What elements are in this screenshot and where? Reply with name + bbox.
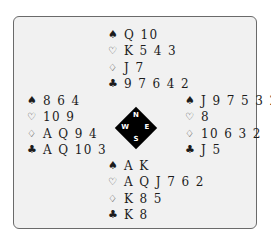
spade-icon: ♠: [108, 158, 120, 174]
heart-icon: ♡: [185, 109, 197, 125]
spade-icon: ♠: [108, 27, 120, 43]
west-diamonds: A Q 9 4: [43, 126, 98, 142]
east-diamonds: 10 6 3 2: [201, 126, 262, 142]
spade-icon: ♠: [27, 93, 39, 109]
compass-west-label: W: [120, 123, 130, 131]
north-hearts: K 5 4 3: [124, 43, 177, 59]
heart-icon: ♡: [108, 174, 120, 190]
north-diamonds: J 7: [124, 60, 144, 76]
south-hearts-row: ♡ A Q J 7 6 2: [108, 174, 205, 190]
east-clubs: J 5: [201, 142, 221, 158]
club-icon: ♣: [185, 142, 197, 158]
west-spades: 8 6 4: [43, 93, 81, 109]
club-icon: ♣: [27, 142, 39, 158]
compass-rose: N S W E: [115, 107, 157, 149]
hand-south: ♠ A K ♡ A Q J 7 6 2 ♢ K 8 5 ♣ K 8: [108, 158, 205, 223]
club-icon: ♣: [108, 76, 120, 92]
north-clubs: 9 7 6 4 2: [124, 76, 190, 92]
south-spades: A K: [124, 158, 150, 174]
east-hearts: 8: [201, 109, 210, 125]
south-spades-row: ♠ A K: [108, 158, 205, 174]
hand-east: ♠ J 9 7 5 3 2 ♡ 8 ♢ 10 6 3 2 ♣ J 5: [185, 93, 271, 158]
south-diamonds: K 8 5: [124, 191, 163, 207]
heart-icon: ♡: [108, 43, 120, 59]
south-clubs: K 8: [124, 207, 149, 223]
spade-icon: ♠: [185, 93, 197, 109]
south-hearts: A Q J 7 6 2: [124, 174, 205, 190]
compass-east-label: E: [142, 123, 152, 131]
north-diamonds-row: ♢ J 7: [108, 60, 190, 76]
hand-west: ♠ 8 6 4 ♡ 10 9 ♢ A Q 9 4 ♣ A Q 10 3: [27, 93, 107, 158]
west-hearts-row: ♡ 10 9: [27, 109, 107, 125]
west-diamonds-row: ♢ A Q 9 4: [27, 126, 107, 142]
east-hearts-row: ♡ 8: [185, 109, 271, 125]
south-diamonds-row: ♢ K 8 5: [108, 191, 205, 207]
east-spades: J 9 7 5 3 2: [201, 93, 271, 109]
diamond-icon: ♢: [108, 60, 120, 76]
diamond-icon: ♢: [108, 191, 120, 207]
north-clubs-row: ♣ 9 7 6 4 2: [108, 76, 190, 92]
diamond-icon: ♢: [185, 126, 197, 142]
west-spades-row: ♠ 8 6 4: [27, 93, 107, 109]
north-spades: Q 10: [124, 27, 159, 43]
west-clubs: A Q 10 3: [43, 142, 107, 158]
west-clubs-row: ♣ A Q 10 3: [27, 142, 107, 158]
hand-north: ♠ Q 10 ♡ K 5 4 3 ♢ J 7 ♣ 9 7 6 4 2: [108, 27, 190, 92]
club-icon: ♣: [108, 207, 120, 223]
west-hearts: 10 9: [43, 109, 75, 125]
east-clubs-row: ♣ J 5: [185, 142, 271, 158]
diamond-icon: ♢: [27, 126, 39, 142]
compass-south-label: S: [131, 135, 141, 143]
heart-icon: ♡: [27, 109, 39, 125]
south-clubs-row: ♣ K 8: [108, 207, 205, 223]
north-spades-row: ♠ Q 10: [108, 27, 190, 43]
compass-north-label: N: [131, 111, 141, 119]
east-diamonds-row: ♢ 10 6 3 2: [185, 126, 271, 142]
east-spades-row: ♠ J 9 7 5 3 2: [185, 93, 271, 109]
north-hearts-row: ♡ K 5 4 3: [108, 43, 190, 59]
